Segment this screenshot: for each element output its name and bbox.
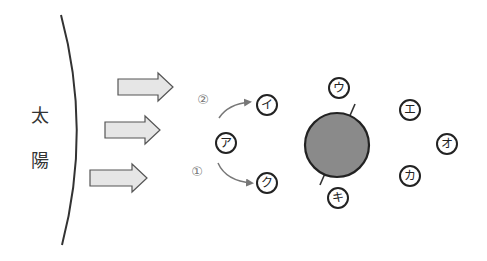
sunlight-arrow-icon	[105, 116, 160, 144]
diagram-canvas	[0, 0, 487, 261]
sun-label-char: 陽	[28, 149, 52, 173]
moon-position-a: ア	[215, 132, 237, 154]
path-label-2: ②	[194, 91, 212, 109]
moon-position-ki: キ	[327, 187, 349, 209]
moon-position-ka: カ	[399, 165, 421, 187]
moon-position-o: オ	[436, 133, 458, 155]
moon-position-u: ウ	[328, 77, 350, 99]
sunlight-arrow-icon	[90, 164, 147, 192]
path-label-1: ①	[188, 163, 206, 181]
earth-circle	[305, 113, 369, 177]
moon-position-i: イ	[256, 94, 278, 116]
sunlight-arrow-icon	[118, 73, 173, 101]
sun-label-char: 太	[28, 104, 52, 128]
curve-arrow-icon	[218, 163, 252, 183]
moon-position-ku: ク	[256, 172, 278, 194]
moon-phase-diagram: 太 陽 ② ① ア イ ウ エ オ カ キ ク	[0, 0, 487, 261]
sun-edge-curve	[61, 15, 77, 245]
curve-arrow-icon	[219, 102, 250, 118]
moon-position-e: エ	[399, 99, 421, 121]
